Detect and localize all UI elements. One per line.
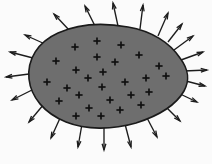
physics-field-diagram: Closed surface enclosing positive charge… [0,0,212,164]
diagram-canvas [0,0,212,164]
